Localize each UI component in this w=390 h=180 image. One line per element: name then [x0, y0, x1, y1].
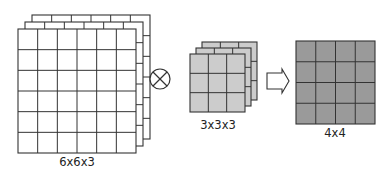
output-matrix — [296, 41, 375, 124]
filter-layer-border — [190, 54, 245, 112]
output-label: 4x4 — [324, 126, 345, 140]
output-layer-1 — [296, 41, 375, 124]
convolution-diagram: 6x6x3 3x3x3 4x4 — [0, 0, 390, 180]
filter-volume — [190, 42, 257, 112]
input-layer-1 — [18, 29, 136, 153]
result-arrow-icon — [267, 69, 289, 93]
input-volume — [18, 15, 150, 153]
input-label: 6x6x3 — [59, 155, 95, 169]
filter-layer-1 — [190, 54, 245, 112]
convolution-operator-icon — [150, 69, 170, 89]
filter-label: 3x3x3 — [200, 118, 236, 132]
